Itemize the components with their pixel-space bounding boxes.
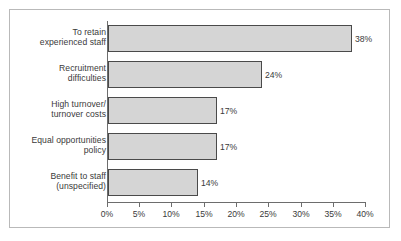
- bar-2: [108, 97, 217, 124]
- bar-1: [108, 61, 262, 88]
- category-label-3: Equal opportunities policy: [0, 135, 106, 155]
- bar-value-1: 24%: [265, 70, 282, 80]
- bar-4: [108, 169, 198, 196]
- x-tick-15: [204, 203, 205, 207]
- x-tick-0: [107, 203, 108, 207]
- plot-area: To retain experienced staff Recruitment …: [0, 0, 401, 241]
- category-label-4: Benefit to staff (unspecified): [0, 171, 106, 191]
- x-tick-40: [365, 203, 366, 207]
- bar-3: [108, 133, 217, 160]
- x-tick-20: [236, 203, 237, 207]
- x-tick-30: [301, 203, 302, 207]
- category-label-0: To retain experienced staff: [0, 27, 106, 47]
- x-tick-10: [171, 203, 172, 207]
- bar-value-4: 14%: [201, 178, 218, 188]
- bar-value-2: 17%: [220, 106, 237, 116]
- x-tick-35: [333, 203, 334, 207]
- chart-figure: To retain experienced staff Recruitment …: [0, 0, 401, 241]
- bar-value-3: 17%: [220, 142, 237, 152]
- x-tick-label-8: 40%: [345, 209, 385, 219]
- x-tick-5: [139, 203, 140, 207]
- x-tick-25: [268, 203, 269, 207]
- bar-value-0: 38%: [355, 34, 372, 44]
- category-label-2: High turnover/ turnover costs: [0, 99, 106, 119]
- category-label-1: Recruitment difficulties: [0, 63, 106, 83]
- bar-0: [108, 25, 352, 52]
- y-axis-line: [107, 21, 108, 203]
